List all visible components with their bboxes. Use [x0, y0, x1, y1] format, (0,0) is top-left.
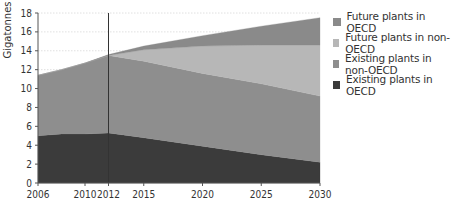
y-tick-label: 0	[26, 178, 32, 189]
data-areas	[38, 18, 320, 183]
x-tick-label: 2030	[309, 189, 332, 200]
y-tick-label: 12	[21, 64, 32, 75]
y-tick-label: 8	[26, 102, 32, 113]
legend-swatch	[333, 60, 339, 68]
legend-item-future-non-oecd: Future plants in non-OECD	[333, 32, 451, 53]
x-tick-label: 2015	[132, 189, 155, 200]
x-tick-label: 2012	[97, 189, 120, 200]
y-tick-label: 16	[21, 26, 33, 37]
x-tick-label: 2020	[191, 189, 214, 200]
x-tick-label: 2006	[27, 189, 50, 200]
y-tick-label: 6	[26, 121, 32, 132]
legend-label: Existing plants in OECD	[346, 73, 451, 97]
legend-item-existing-non-oecd: Existing plants in non-OECD	[333, 53, 451, 74]
legend: Future plants in OECD Future plants in n…	[333, 11, 451, 95]
x-tick-label: 2025	[250, 189, 273, 200]
legend-item-existing-oecd: Existing plants in OECD	[333, 74, 451, 95]
y-tick-label: 10	[21, 83, 33, 94]
legend-item-future-oecd: Future plants in OECD	[333, 11, 451, 32]
y-axis-title: Gigatonnes	[2, 1, 13, 58]
y-tick-label: 14	[21, 45, 33, 56]
legend-swatch	[333, 39, 339, 47]
y-tick-label: 18	[21, 8, 33, 19]
legend-swatch	[333, 18, 341, 26]
legend-swatch	[333, 81, 340, 89]
y-tick-label: 4	[26, 140, 32, 151]
x-tick-label: 2010	[74, 189, 97, 200]
y-tick-label: 2	[26, 159, 32, 170]
